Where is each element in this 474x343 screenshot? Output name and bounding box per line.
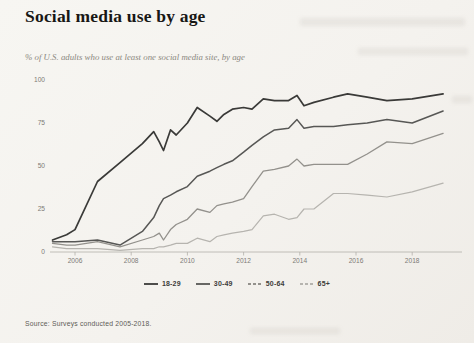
source-note: Source: Surveys conducted 2005-2018. [25,320,152,327]
y-tick-label: 75 [38,119,46,126]
x-tick-label: 2014 [292,257,307,264]
y-tick-label: 25 [38,205,46,212]
legend-swatch-line-icon [196,281,210,287]
legend-item-18-29: 18-29 [144,280,181,287]
x-tick-label: 2008 [124,257,139,264]
legend-swatch-line-icon [248,281,262,287]
legend-item-30-49: 30-49 [196,280,233,287]
legend-swatch-line-icon [144,281,158,287]
line-chart: 20062008201020122014201620180255075100 [0,0,474,343]
series-line-50-64 [53,133,444,247]
y-tick-label: 100 [34,76,45,83]
series-line-30-49 [53,111,444,245]
y-tick-label: 0 [41,248,45,255]
legend-item-50-64: 50-64 [248,280,285,287]
x-tick-label: 2006 [68,257,83,264]
chart-legend: 18-2930-4950-6465+ [0,280,474,287]
page-background: Social media use by age % of U.S. adults… [0,0,474,343]
legend-label: 50-64 [266,280,285,287]
series-line-18-29 [53,94,444,240]
legend-label: 30-49 [214,280,233,287]
legend-label: 18-29 [162,280,181,287]
legend-item-65plus: 65+ [300,280,330,287]
x-tick-label: 2018 [405,257,420,264]
legend-swatch-line-icon [300,281,314,287]
y-tick-label: 50 [38,162,46,169]
x-tick-label: 2010 [180,257,195,264]
legend-label: 65+ [318,280,330,287]
x-tick-label: 2016 [349,257,364,264]
x-tick-label: 2012 [236,257,251,264]
